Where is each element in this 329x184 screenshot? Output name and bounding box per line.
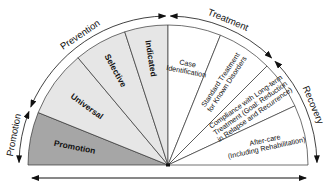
dividers-layer bbox=[166, 164, 170, 167]
center-point bbox=[166, 164, 170, 167]
intervention-spectrum-diagram: PromotionUniversalSelectiveIndicatedCase… bbox=[0, 0, 329, 184]
